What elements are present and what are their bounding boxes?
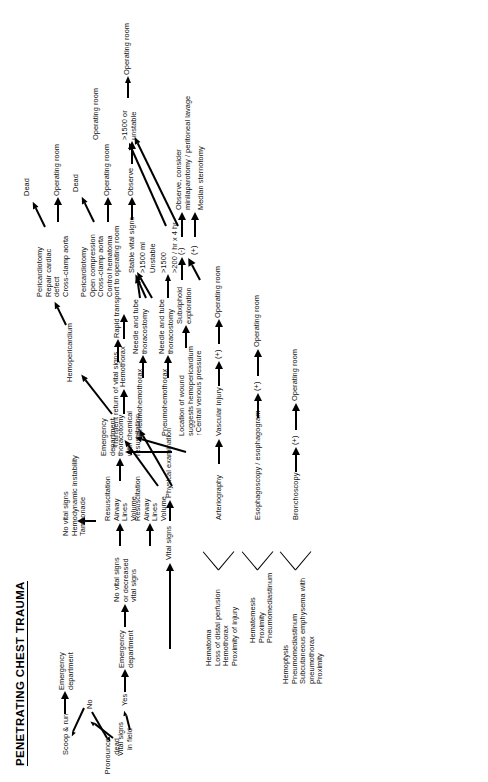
node-subxiphoid-negative: (-)	[177, 247, 186, 255]
node-operating-room-2: Operating room	[103, 144, 112, 196]
node-arteriography-positive: (+)	[214, 350, 223, 359]
arrow-subxiphoid-to-plus	[189, 259, 200, 280]
node-operating-room-7: Operating room	[291, 349, 300, 401]
node-bronchoscopy-positive: (+)	[291, 436, 300, 445]
node-arteriography: Arteriography	[215, 475, 224, 520]
page-title: PENETRATING CHEST TRAUMA	[14, 581, 28, 766]
list-vascular-findings: Hematoma Loss of distal perfusion Hemoth…	[205, 589, 239, 666]
arrow-no-to-scoop-run	[70, 708, 84, 739]
node-operating-room-6: Operating room	[253, 295, 262, 347]
node-emergency-department-top: Emergency department	[58, 652, 75, 690]
node-dead-2: Dead	[72, 174, 81, 192]
node-esophagoscopy-positive: (+)	[253, 382, 262, 391]
node-observe: Observe	[127, 168, 136, 196]
node-yes: Yes	[121, 694, 130, 706]
node-median-sternotomy: Median sternotomy	[197, 146, 206, 210]
node-no-vital-signs-block: No vital signs Hemodynamic instability T…	[62, 455, 88, 536]
node-hemopericardium: Hemopericardium	[66, 323, 75, 382]
node-location-of-wound: Location of wound suggests hemopericardi…	[178, 346, 204, 436]
node-resuscitation-b: Resuscitation Airway Lines Volume	[134, 476, 168, 521]
node-stable-vital-signs: Stable vital signs	[128, 217, 137, 273]
node-rapid-transport: Rapid transport to operating room	[113, 226, 122, 338]
node-emergency-department-lower: Emergency department	[118, 630, 135, 668]
node-needle-and-tube-thoracostomy-1: Needle and tube thoracostomy	[132, 299, 149, 354]
arrow-converge-to-operating-room-4-b	[134, 136, 178, 226]
node-dead-1: Dead	[23, 178, 32, 196]
node-vascular-injury: Vascular injury	[215, 387, 224, 436]
node-bronchoscopy: Bronchoscopy	[292, 473, 301, 520]
node-pronounce-dead: Pronounce dead	[104, 738, 121, 776]
arrow-treatment2-to-dead	[82, 197, 94, 222]
arrow-treatment1-to-dead	[33, 202, 45, 227]
list-tracheobronchial-findings: Hemoptysis Pneumomediastinum Subcutaneou…	[282, 578, 325, 684]
node-unstable: Unstable	[149, 243, 158, 273]
node-pericardiotomy-treatment-1: Pericardiotomy Repair cardiac defect Cro…	[36, 236, 70, 297]
list-esophageal-findings: Hematemesis Proximity Pneumomediastinum	[249, 573, 275, 643]
node-pneumohemothorax-2: Pneumohemothorax	[161, 369, 170, 436]
node-no: No	[86, 699, 95, 709]
node-operating-room-3: Operating room	[123, 23, 132, 75]
node-subxiphoid-positive: (+)	[190, 246, 199, 255]
node-pneumohemothorax-1: Pneumohemothorax	[136, 369, 145, 436]
node-no-vital-signs-or-decreased: No vital signs or decreased vital signs	[113, 557, 139, 602]
arrow-hemopericardium-to-treatment	[55, 302, 66, 325]
node-subxiphoid-exploration: Subxiphoid exploration	[176, 287, 193, 324]
node-pericardiotomy-treatment-2: Pericardiotomy Open compression Cross-cl…	[80, 234, 114, 297]
flowchart-canvas: PENETRATING CHEST TRAUMA Vital signs in …	[0, 0, 488, 782]
node-esophagoscopy: Esophagoscopy / esophagogram	[254, 411, 263, 520]
node-gt-1500: >1500	[160, 252, 169, 273]
node-operating-room-5: Operating room	[214, 266, 223, 318]
node-observe-consider: Observe, consider minilaparotomy / perit…	[175, 96, 192, 210]
node-operating-room-1: Operating room	[53, 144, 62, 196]
node-scoop-and-run: Scoop & run	[62, 714, 71, 755]
diagram-stage: PENETRATING CHEST TRAUMA Vital signs in …	[0, 0, 488, 782]
node-vital-signs: Vital signs	[165, 526, 174, 560]
node-needle-and-tube-thoracostomy-2: Needle and tube thoracostomy	[158, 299, 175, 354]
arrow-ed-thoracotomy-to-hemopericardium	[80, 373, 112, 414]
node-operating-room-4: Operating room	[92, 88, 101, 140]
node-gt-1500-ml: >1500 ml	[139, 242, 148, 273]
node-transient-return-of-vital-signs: Transient return of vital signs	[112, 352, 121, 448]
